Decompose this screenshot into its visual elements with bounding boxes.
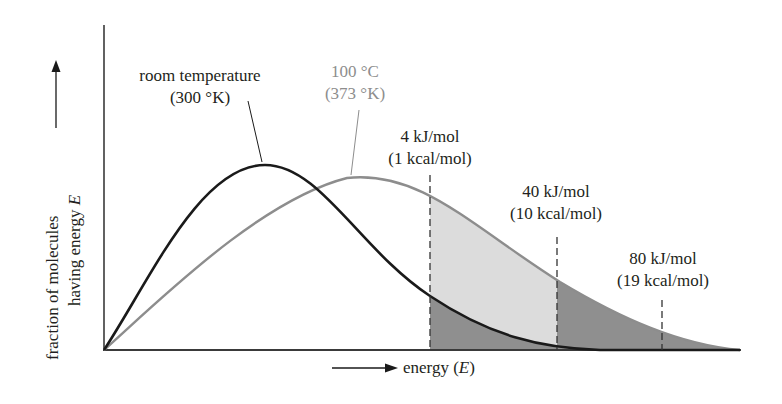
threshold-4kj-top: 4 kJ/mol <box>370 127 490 147</box>
hot-temp-kelvin: (373 °K) <box>310 84 400 104</box>
leader-room <box>248 101 262 162</box>
room-temp-kelvin: (300 °K) <box>115 88 285 108</box>
y-axis-label-line1: fraction of molecules <box>42 62 64 362</box>
x-axis-label-close: ) <box>469 358 475 377</box>
threshold-4kj-bottom: (1 kcal/mol) <box>370 149 490 169</box>
x-axis-label-text: energy ( <box>403 358 459 377</box>
threshold-80kj-top: 80 kJ/mol <box>593 249 733 269</box>
label-threshold-40kj: 40 kJ/mol (10 kcal/mol) <box>486 182 626 224</box>
y-axis-label-line2-text: having energy <box>65 205 84 306</box>
x-axis-label-var: E <box>459 358 469 377</box>
label-threshold-80kj: 80 kJ/mol (19 kcal/mol) <box>593 249 733 291</box>
label-threshold-4kj: 4 kJ/mol (1 kcal/mol) <box>370 127 490 169</box>
y-axis-label: fraction of molecules having energy E <box>42 62 62 362</box>
label-room-temperature: room temperature (300 °K) <box>115 66 285 108</box>
room-temp-title: room temperature <box>115 66 285 86</box>
leader-hot <box>351 110 359 175</box>
threshold-80kj-bottom: (19 kcal/mol) <box>593 271 733 291</box>
y-axis-label-line2: having energy E <box>64 62 86 362</box>
x-axis-label: energy (E) <box>403 358 475 378</box>
threshold-40kj-bottom: (10 kcal/mol) <box>486 204 626 224</box>
label-100c: 100 °C (373 °K) <box>310 62 400 104</box>
y-axis-label-line2-var: E <box>65 195 84 205</box>
distribution-chart <box>0 0 782 404</box>
threshold-40kj-top: 40 kJ/mol <box>486 182 626 202</box>
hot-temp-title: 100 °C <box>310 62 400 82</box>
x-arrow-icon <box>385 364 398 373</box>
shaded-region-light <box>430 0 557 350</box>
